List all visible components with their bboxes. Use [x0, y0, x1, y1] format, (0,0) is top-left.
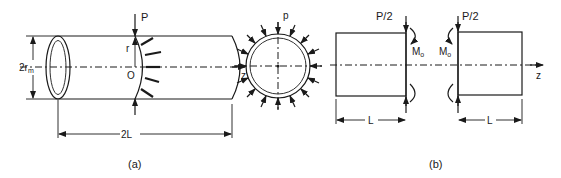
- left-length-label: L: [368, 115, 374, 126]
- pressure-tick: [141, 89, 153, 97]
- panel-b: z P/2 Mo L P/2 Mo L (b): [330, 10, 543, 170]
- right-moment-top: [448, 28, 453, 44]
- right-moment-label: Mo: [439, 46, 451, 58]
- cross-section: p: [234, 10, 322, 110]
- panel-a: z P r O 2rm 2L (a): [19, 11, 246, 170]
- section-center: [277, 65, 280, 68]
- pressure-tick: [145, 52, 161, 55]
- pressure-tick: [145, 78, 159, 82]
- right-length-label: L: [487, 115, 493, 126]
- cylinder-ring-load-diagram: z P r O 2rm 2L (a): [0, 0, 561, 178]
- pressure-label: p: [283, 10, 289, 21]
- origin-label: O: [127, 70, 135, 81]
- length-label: 2L: [121, 129, 133, 140]
- left-moment-top: [410, 28, 415, 44]
- pressure-tick: [141, 38, 153, 45]
- radius-label: r: [126, 43, 130, 54]
- right-half-cylinder: [458, 32, 522, 95]
- caption-a: (a): [128, 158, 141, 170]
- diameter-label: 2rm: [19, 62, 34, 74]
- left-moment-label: Mo: [412, 46, 424, 58]
- load-p-label: P: [141, 11, 148, 23]
- z-axis-label-b: z: [536, 70, 541, 81]
- caption-b: (b): [429, 158, 442, 170]
- right-moment-bottom: [448, 84, 453, 102]
- left-moment-bottom: [410, 84, 415, 102]
- right-load-label: P/2: [462, 10, 479, 22]
- left-load-label: P/2: [376, 10, 393, 22]
